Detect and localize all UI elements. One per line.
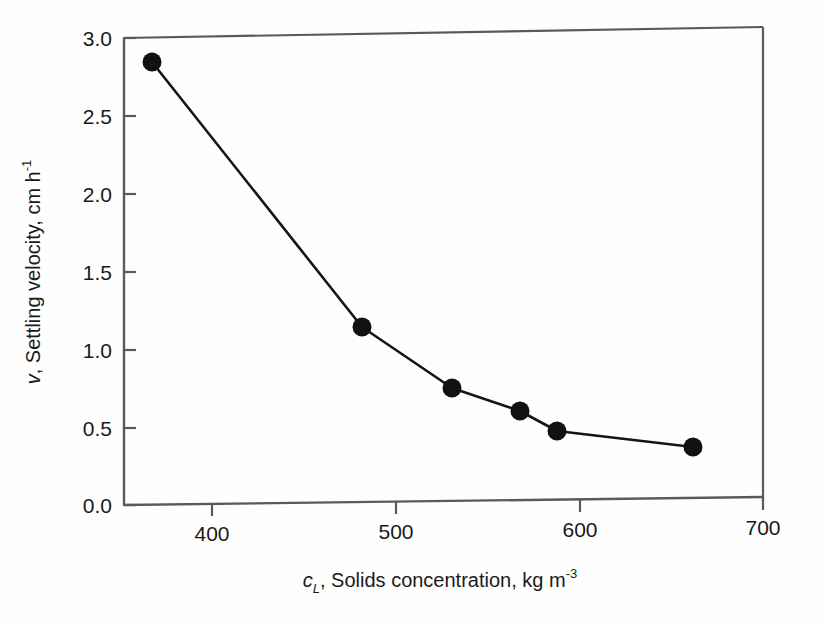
settling-velocity-chart: 3.0 2.5 2.0 1.5 1.0 0.5 0.0 400 500 600 … [0, 0, 825, 626]
data-markers [143, 53, 703, 457]
data-point-marker [511, 402, 530, 421]
x-tick-label: 700 [745, 516, 780, 539]
x-axis-tick-labels: 400 500 600 700 [194, 516, 780, 545]
y-axis-tick-labels: 3.0 2.5 2.0 1.5 1.0 0.5 0.0 [83, 27, 112, 517]
data-point-marker [684, 438, 703, 457]
y-axis-ticks [124, 38, 136, 505]
frame-top-border [123, 27, 763, 38]
figure-canvas: 3.0 2.5 2.0 1.5 1.0 0.5 0.0 400 500 600 … [0, 0, 825, 626]
y-tick-label: 2.0 [83, 183, 112, 206]
data-point-marker [353, 318, 372, 337]
y-axis-title-superscript: -1 [19, 160, 34, 172]
x-tick-label: 600 [562, 518, 597, 541]
y-tick-label: 3.0 [83, 27, 112, 50]
y-axis-title: v, Settling velocity, cm h-1 [19, 160, 44, 385]
x-tick-label: 500 [378, 520, 413, 543]
settling-velocity-polyline [152, 62, 693, 447]
y-tick-label: 2.5 [83, 105, 112, 128]
y-tick-label: 1.5 [83, 261, 112, 284]
x-axis-title-text: , Solids concentration, kg m [320, 569, 566, 591]
x-axis-title-symbol: c [303, 569, 313, 591]
y-axis-title-text: , Settling velocity, cm h [22, 171, 44, 374]
data-point-marker [143, 53, 162, 72]
plot-frame [123, 27, 763, 505]
y-tick-label: 1.0 [83, 339, 112, 362]
x-tick-label: 400 [194, 522, 229, 545]
x-axis-line [123, 497, 763, 505]
data-point-marker [443, 379, 462, 398]
y-tick-label: 0.0 [83, 494, 112, 517]
y-tick-label: 0.5 [83, 417, 112, 440]
data-series-line [152, 62, 693, 447]
x-axis-title-subscript: L [313, 581, 320, 596]
x-axis-title: cL, Solids concentration, kg m-3 [303, 566, 577, 596]
data-point-marker [548, 422, 567, 441]
x-axis-title-superscript: -3 [566, 566, 578, 581]
